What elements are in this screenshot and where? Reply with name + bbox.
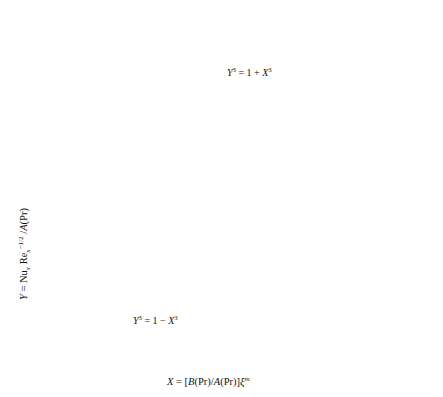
opposing-flow-annotation: Y3 = 1 − X3 bbox=[133, 314, 178, 326]
assisting-flow-formula-text: Y3 = 1 + X3 bbox=[227, 67, 272, 78]
y-axis-title-text: Y = Nux Rex−1/2 /A(Pr) bbox=[18, 208, 29, 300]
opposing-flow-formula-text: Y3 = 1 − X3 bbox=[133, 315, 178, 326]
assisting-flow-formula: Y3 = 1 + X3 bbox=[227, 66, 272, 78]
y-axis-title: Y = Nux Rex−1/2 /A(Pr) bbox=[16, 208, 32, 300]
x-axis-title-text: X = [B(Pr)/A(Pr)]ξm bbox=[167, 376, 250, 387]
plot-canvas bbox=[0, 0, 443, 397]
x-axis-title: X = [B(Pr)/A(Pr)]ξm bbox=[167, 374, 250, 387]
figure-container: Y = Nux Rex−1/2 /A(Pr) X = [B(Pr)/A(Pr)]… bbox=[0, 0, 443, 397]
